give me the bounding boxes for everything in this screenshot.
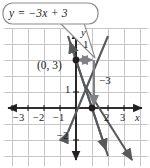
- x-tick-label-neg1: −1: [53, 113, 64, 124]
- point-y-intercept: [73, 57, 80, 64]
- x-axis-label: x: [135, 113, 140, 124]
- y-axis-label: y: [81, 28, 86, 39]
- y-tick-label-neg2: −2: [57, 131, 68, 142]
- x-tick-label-neg2: −2: [33, 113, 44, 124]
- x-tick-label-2: 2: [104, 113, 109, 124]
- x-tick-label-neg3: −3: [13, 113, 24, 124]
- graph-screenshot: y = −3x + 3 (0, 3) 1 −3 1 −2 −3 −2 −1 2 …: [0, 0, 150, 168]
- x-tick-label-3: 3: [120, 113, 125, 124]
- coordinate-graph-figure: [0, 0, 150, 168]
- rise-label: −3: [99, 75, 111, 86]
- y-tick-label-1: 1: [65, 85, 70, 96]
- equation-label: y = −3x + 3: [9, 7, 68, 19]
- run-label: 1: [83, 39, 89, 50]
- point-x-intercept: [89, 105, 96, 112]
- point-label-y-intercept: (0, 3): [37, 60, 62, 72]
